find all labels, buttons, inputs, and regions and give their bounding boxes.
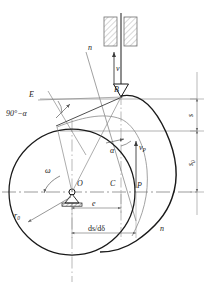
- normal-n-bottom-label: n: [160, 224, 164, 233]
- velocity-v-label: v: [116, 64, 120, 73]
- displacement-dimensions: [190, 72, 204, 215]
- pitch-point-P-label: P: [136, 181, 142, 190]
- ground-hatching: [62, 203, 82, 206]
- angle-90-minus-alpha-arc: [56, 101, 70, 118]
- base-radius-dimension: [28, 197, 71, 222]
- guide-block-right: [124, 17, 137, 46]
- cam-profile-curve: [100, 95, 176, 252]
- normal-n-top-label: n: [88, 43, 92, 52]
- angular-velocity-label: ω: [45, 166, 51, 175]
- offset-e-label: e: [92, 199, 96, 208]
- displacement-s0-label: s0: [186, 160, 196, 166]
- contact-point-B-label: B: [114, 85, 119, 94]
- line-E-to-B: [38, 97, 123, 100]
- displacement-s-label: s: [186, 114, 195, 117]
- point-C-label: C: [110, 179, 116, 188]
- point-E-label: E: [28, 90, 34, 99]
- base-radius-label: r0: [14, 211, 20, 221]
- offset-dimension: [72, 192, 121, 213]
- pressure-angle-arc: [106, 139, 131, 146]
- radius-O-to-E: [57, 127, 72, 192]
- velocity-P-label: vP: [139, 143, 147, 153]
- angle-90-minus-alpha-label: 90°−α: [6, 109, 28, 118]
- chord-E-B: [56, 97, 122, 126]
- normal-line-n: [86, 52, 136, 221]
- angular-velocity-arrow: [44, 176, 60, 193]
- cam-diagram-canvas: v n n E 90°−α O C P B: [0, 0, 219, 299]
- guide-block-left: [104, 17, 117, 46]
- ds-ddelta-label: ds/dδ: [88, 224, 105, 233]
